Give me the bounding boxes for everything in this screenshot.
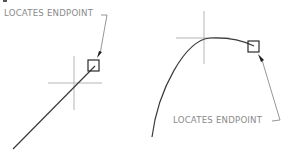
label-arc-endpoint: LOCATES ENDPOINT <box>173 115 262 125</box>
diagram-canvas <box>0 0 288 152</box>
endpoint-snap-marker <box>88 60 99 71</box>
label-line-endpoint: LOCATES ENDPOINT <box>4 8 93 18</box>
arrowhead-icon <box>97 51 102 58</box>
endpoint-snap-marker <box>248 41 259 52</box>
line-endpoint-figure <box>13 15 107 149</box>
leader-line <box>262 60 280 121</box>
leader-line <box>100 15 107 54</box>
arrowhead-icon <box>258 54 264 62</box>
cropped-glyph <box>3 0 7 2</box>
line-segment <box>13 66 95 149</box>
